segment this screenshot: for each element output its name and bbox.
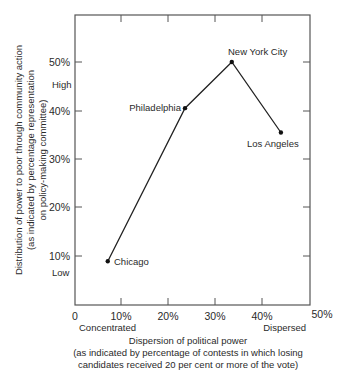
x-annotation-low: Concentrated — [79, 322, 136, 333]
plot-frame — [75, 15, 310, 305]
data-point — [230, 60, 234, 64]
data-point — [106, 259, 110, 263]
point-label-new-york-city: New York City — [228, 46, 287, 57]
y-tick-label: 40% — [49, 105, 70, 117]
point-label-philadelphia: Philadelphia — [129, 102, 181, 113]
chart: 0 10% 20% 30% 40% 50% Concentrated Dispe… — [0, 0, 338, 377]
y-annotation-high: High — [52, 79, 72, 90]
data-point — [279, 130, 283, 134]
y-axis-subtitle-2: on policy-making committee) — [37, 100, 48, 221]
y-tick-label: 50% — [49, 56, 70, 68]
x-tick-label: 30% — [204, 310, 225, 322]
x-axis-subtitle: (as indicated by percentage of contests … — [73, 347, 303, 358]
data-points — [106, 60, 284, 264]
y-axis-subtitle: (as indicated by percentage representati… — [25, 70, 36, 250]
data-point — [183, 106, 187, 110]
x-axis-title: Dispersion of political power — [129, 335, 247, 346]
point-label-los-angeles: Los Angeles — [247, 138, 299, 149]
y-tick-label: 10% — [49, 250, 70, 262]
y-tick-label: 30% — [49, 153, 70, 165]
x-tick-label: 20% — [157, 310, 178, 322]
x-annotation-high: Dispersed — [263, 322, 306, 333]
x-tick-label: 40% — [251, 310, 272, 322]
y-tick-label: 20% — [49, 201, 70, 213]
x-tick-label: 10% — [110, 310, 131, 322]
y-axis-title: Distribution of power to poor through co… — [13, 45, 24, 275]
x-axis-subtitle-2: candidates received 20 per cent or more … — [78, 359, 298, 370]
y-annotation-low: Low — [52, 267, 70, 278]
x-tick-label: 50% — [311, 308, 332, 320]
data-line — [108, 62, 281, 261]
y-ticks — [75, 62, 310, 256]
x-tick-label: 0 — [72, 310, 78, 322]
point-label-chicago: Chicago — [114, 256, 149, 267]
